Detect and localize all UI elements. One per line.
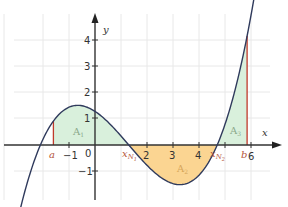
function-curve xyxy=(16,0,255,207)
x-tick-2: 2 xyxy=(143,150,149,161)
bound-label-b: b xyxy=(241,149,247,160)
bound-label-a: a xyxy=(49,149,55,160)
x-tick-0: 0 xyxy=(85,148,91,159)
function-area-chart: −1 0 2 3 4 6 4 3 2 1 −1 y x a b xN1 xN2 … xyxy=(0,0,288,207)
y-tick-3: 3 xyxy=(84,61,90,72)
x-tick-6: 6 xyxy=(248,151,254,162)
y-axis-label: y xyxy=(102,24,109,35)
zero-label-xn2: xN2 xyxy=(210,148,225,162)
x-axis-label: x xyxy=(262,127,268,138)
x-axis-arrow-icon xyxy=(272,142,282,149)
y-tick-2: 2 xyxy=(84,87,90,98)
x-tick-4: 4 xyxy=(195,150,201,161)
y-tick-1: 1 xyxy=(84,113,90,124)
y-axis-arrow-icon xyxy=(92,13,99,23)
area-a1 xyxy=(53,105,128,145)
x-tick-minus1: −1 xyxy=(63,150,78,161)
y-tick-4: 4 xyxy=(84,35,90,46)
y-tick-minus1: −1 xyxy=(78,166,93,177)
x-tick-3: 3 xyxy=(169,150,175,161)
